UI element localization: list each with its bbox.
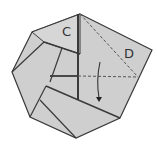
flap-d-label: D xyxy=(124,47,134,60)
flap-c-label: C xyxy=(62,25,71,38)
origami-diagram xyxy=(0,0,157,146)
